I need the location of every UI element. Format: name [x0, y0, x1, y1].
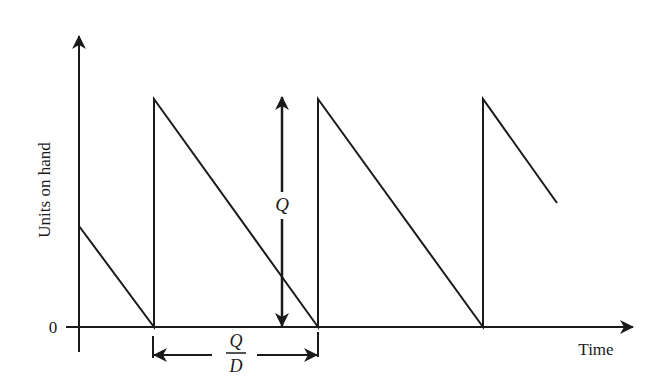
sawtooth-diagram: Q Q D 0 Time Units on hand — [0, 0, 663, 391]
inventory-line — [79, 99, 557, 327]
x-axis-label: Time — [578, 340, 613, 359]
cycle-denominator: D — [229, 356, 243, 376]
q-label: Q — [275, 194, 289, 215]
y-axis-label: Units on hand — [35, 142, 54, 238]
cycle-numerator: Q — [230, 331, 243, 351]
origin-label: 0 — [49, 318, 58, 337]
